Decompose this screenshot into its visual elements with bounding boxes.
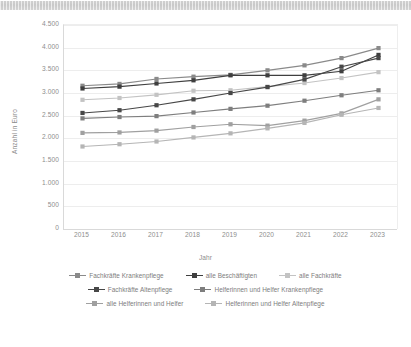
data-point-marker xyxy=(376,56,380,60)
data-point-marker xyxy=(228,107,232,111)
series-line xyxy=(83,108,379,147)
data-point-marker xyxy=(191,97,195,101)
legend-label: Helferinnen und Helfer Krankenpflege xyxy=(214,286,323,293)
data-point-marker xyxy=(339,69,343,73)
data-point-marker xyxy=(191,125,195,129)
data-point-marker xyxy=(339,113,343,117)
data-point-marker xyxy=(265,68,269,72)
data-point-marker xyxy=(117,130,121,134)
data-point-marker xyxy=(117,85,121,89)
y-tick-label: 2.000 xyxy=(13,134,59,141)
legend-marker-icon xyxy=(88,286,105,293)
y-tick-label: 2.500 xyxy=(13,112,59,119)
data-point-marker xyxy=(154,77,158,81)
x-tick-label: 2019 xyxy=(210,232,250,239)
data-point-marker xyxy=(302,63,306,67)
series-helferinnen-und-helfer-altenpflege xyxy=(80,106,380,149)
legend-marker-icon xyxy=(194,286,211,293)
series-fachkr-fte-altenpflege xyxy=(80,56,380,115)
plot-area xyxy=(63,24,398,229)
data-point-marker xyxy=(154,103,158,107)
data-point-marker xyxy=(265,85,269,89)
data-point-marker xyxy=(302,99,306,103)
data-point-marker xyxy=(191,89,195,93)
y-axis-title: Anzahl in Euro xyxy=(11,82,18,182)
data-point-marker xyxy=(228,131,232,135)
data-point-marker xyxy=(80,144,84,148)
data-point-marker xyxy=(265,73,269,77)
y-tick-label: 1.000 xyxy=(13,180,59,187)
x-tick-label: 2022 xyxy=(321,232,361,239)
data-point-marker xyxy=(302,81,306,85)
data-point-marker xyxy=(154,129,158,133)
data-point-marker xyxy=(191,75,195,79)
x-tick-label: 2023 xyxy=(358,232,398,239)
data-point-marker xyxy=(302,121,306,125)
data-point-marker xyxy=(339,76,343,80)
data-point-marker xyxy=(265,104,269,108)
legend-item-alle-helferinnen-und-helfer[interactable]: alle Helferinnen und Helfer xyxy=(86,300,183,307)
legend-label: alle Beschäftigten xyxy=(206,272,257,279)
data-point-marker xyxy=(154,114,158,118)
data-point-marker xyxy=(228,122,232,126)
scan-noise xyxy=(0,1,411,10)
legend-item-alle-fachkr-fte[interactable]: alle Fachkräfte xyxy=(279,272,342,279)
legend-item-fachkr-fte-krankenpflege[interactable]: Fachkräfte Krankenpflege xyxy=(69,272,163,279)
data-point-marker xyxy=(80,111,84,115)
legend-marker-icon xyxy=(279,272,296,279)
x-axis-title: Jahr xyxy=(0,254,411,261)
data-point-marker xyxy=(117,96,121,100)
y-tick-label: 4.500 xyxy=(13,21,59,28)
legend-item-helferinnen-und-helfer-krankenpflege[interactable]: Helferinnen und Helfer Krankenpflege xyxy=(194,286,323,293)
data-point-marker xyxy=(228,91,232,95)
data-point-marker xyxy=(117,108,121,112)
data-point-marker xyxy=(80,116,84,120)
legend-label: Fachkräfte Krankenpflege xyxy=(89,272,163,279)
data-point-marker xyxy=(376,106,380,110)
y-tick-label: 3.500 xyxy=(13,66,59,73)
data-point-marker xyxy=(80,131,84,135)
x-tick-label: 2015 xyxy=(62,232,102,239)
x-tick-label: 2016 xyxy=(99,232,139,239)
data-point-marker xyxy=(376,97,380,101)
data-point-marker xyxy=(117,115,121,119)
series-alle-besch-ftigten xyxy=(80,53,380,91)
data-point-marker xyxy=(154,81,158,85)
x-tick-label: 2020 xyxy=(247,232,287,239)
data-point-marker xyxy=(265,126,269,130)
scan-artifact-band xyxy=(0,1,411,10)
series-lines xyxy=(64,25,397,229)
line-chart: Anzahl in Euro 4.5004.0003.5003.0002.500… xyxy=(0,10,411,270)
series-line xyxy=(83,48,379,86)
data-point-marker xyxy=(339,56,343,60)
legend-row-1: Fachkräfte Krankenpflegealle Beschäftigt… xyxy=(0,272,411,279)
data-point-marker xyxy=(154,93,158,97)
legend-item-helferinnen-und-helfer-altenpflege[interactable]: Helferinnen und Helfer Altenpflege xyxy=(205,300,324,307)
data-point-marker xyxy=(191,78,195,82)
legend-label: alle Helferinnen und Helfer xyxy=(106,300,183,307)
legend-row-2: Fachkräfte AltenpflegeHelferinnen und He… xyxy=(0,286,411,293)
y-tick-label: 3.000 xyxy=(13,89,59,96)
legend-marker-icon xyxy=(69,272,86,279)
data-point-marker xyxy=(339,65,343,69)
series-fachkr-fte-krankenpflege xyxy=(80,46,380,88)
data-point-marker xyxy=(228,73,232,77)
legend-item-fachkr-fte-altenpflege[interactable]: Fachkräfte Altenpflege xyxy=(88,286,173,293)
x-tick-label: 2018 xyxy=(173,232,213,239)
data-point-marker xyxy=(376,70,380,74)
x-tick-label: 2017 xyxy=(136,232,176,239)
data-point-marker xyxy=(191,135,195,139)
legend-label: Fachkräfte Altenpflege xyxy=(108,286,173,293)
data-point-marker xyxy=(339,93,343,97)
y-tick-label: 500 xyxy=(13,202,59,209)
y-tick-label: 0 xyxy=(13,225,59,232)
data-point-marker xyxy=(154,139,158,143)
x-tick-label: 2021 xyxy=(284,232,324,239)
y-tick-label: 4.000 xyxy=(13,44,59,51)
legend-item-alle-besch-ftigten[interactable]: alle Beschäftigten xyxy=(186,272,257,279)
data-point-marker xyxy=(117,142,121,146)
chart-legend: Fachkräfte Krankenpflegealle Beschäftigt… xyxy=(0,272,411,314)
data-point-marker xyxy=(302,77,306,81)
legend-marker-icon xyxy=(186,272,203,279)
data-point-marker xyxy=(191,110,195,114)
